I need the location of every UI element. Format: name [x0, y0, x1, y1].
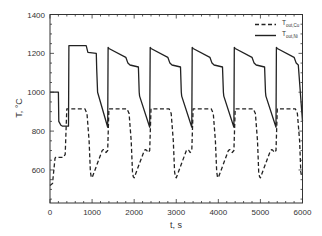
series-line-cu	[50, 109, 303, 186]
y-tick-label: 1200	[27, 49, 45, 58]
line-chart: 0100020003000400050006000 60080010001200…	[0, 0, 322, 236]
axis-ticks	[50, 15, 303, 204]
y-tick-label: 600	[32, 166, 46, 175]
legend-label-ni: Tout,Ni	[282, 30, 298, 39]
x-tick-label: 1000	[83, 208, 101, 217]
x-tick-label: 0	[48, 208, 53, 217]
plot-curves	[50, 46, 303, 186]
legend-item-ni: Tout,Ni	[255, 30, 298, 39]
legend-label-cu: Tout,Cu	[282, 19, 300, 28]
plot-frame	[50, 15, 303, 204]
x-tick-label: 2000	[125, 208, 143, 217]
x-tick-label: 4000	[209, 208, 227, 217]
x-axis-label: t, s	[170, 220, 183, 230]
x-tick-labels: 0100020003000400050006000	[48, 208, 312, 217]
x-tick-label: 6000	[294, 208, 312, 217]
x-tick-label: 3000	[167, 208, 185, 217]
series-line-ni	[50, 46, 303, 128]
y-tick-labels: 600800100012001400	[27, 11, 45, 175]
y-tick-label: 1400	[27, 11, 45, 20]
x-tick-label: 5000	[252, 208, 270, 217]
y-tick-label: 800	[32, 127, 46, 136]
legend: Tout,Cu Tout,Ni	[255, 19, 300, 39]
y-axis-label: T, °C	[14, 98, 24, 118]
legend-item-cu: Tout,Cu	[255, 19, 300, 28]
y-tick-label: 1000	[27, 88, 45, 97]
